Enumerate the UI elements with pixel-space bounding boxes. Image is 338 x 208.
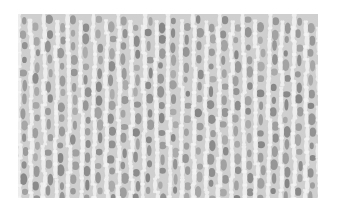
knit-fabric-photo	[18, 14, 318, 198]
knit-texture	[18, 14, 318, 198]
